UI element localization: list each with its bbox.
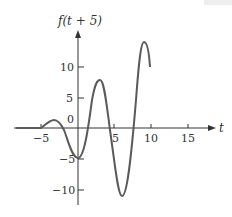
x-tick-label: 10 (144, 132, 158, 145)
origin-label: 0 (67, 113, 74, 126)
x-axis-arrow-icon (208, 125, 216, 131)
y-axis-label: f(t + 5) (57, 14, 102, 28)
curve-f-t-plus-5 (16, 42, 150, 196)
x-axis-label: t (219, 121, 224, 135)
y-tick-label: 10 (60, 61, 74, 74)
x-tick-label: 15 (181, 132, 195, 145)
x-tick-label: −5 (33, 132, 49, 145)
y-tick-label: 5 (66, 92, 73, 105)
x-tick-label: 5 (112, 132, 119, 145)
y-tick-label: −10 (52, 184, 75, 197)
chart: −5 5 10 15 t 10 5 −5 −10 0 f(t + 5) (0, 0, 232, 217)
y-axis-arrow-icon (75, 30, 81, 38)
